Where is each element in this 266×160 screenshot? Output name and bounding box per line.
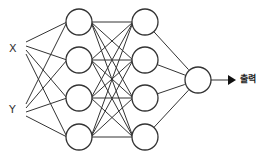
arrow-head-icon [228, 75, 236, 85]
input-edge [26, 22, 67, 42]
neural-network-diagram [0, 0, 266, 160]
output-edge [154, 90, 189, 127]
output-edge [154, 32, 189, 70]
hidden1-node-2 [66, 47, 92, 73]
output-node [185, 67, 211, 93]
input-label-y: Y [9, 104, 16, 115]
hidden1-node-4 [66, 124, 92, 150]
input-label-x: X [9, 43, 17, 54]
output-label: 출력 [240, 75, 256, 84]
input-edge [26, 116, 67, 137]
hidden1-node-3 [66, 85, 92, 111]
hidden2-node-1 [132, 9, 158, 35]
hidden2-node-4 [132, 124, 158, 150]
input-edge [26, 22, 67, 104]
output-edge [157, 85, 184, 94]
hidden2-node-3 [132, 85, 158, 111]
hidden1-node-1 [66, 9, 92, 35]
output-edge [157, 65, 185, 75]
hidden2-node-2 [132, 47, 158, 73]
